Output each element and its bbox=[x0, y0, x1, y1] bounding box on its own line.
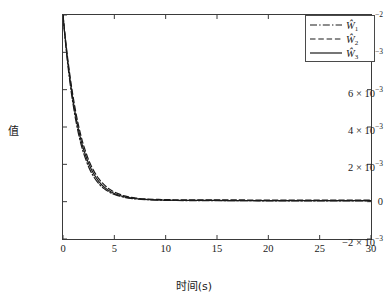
legend-item: Ŵ3 bbox=[309, 46, 371, 60]
legend-line-sample bbox=[309, 48, 343, 58]
legend: Ŵ1Ŵ2Ŵ3 bbox=[305, 15, 375, 62]
legend-label: Ŵ1 bbox=[343, 20, 358, 31]
x-tick-label: 0 bbox=[43, 243, 83, 254]
x-tick-label: 5 bbox=[94, 243, 134, 254]
legend-item: Ŵ2 bbox=[309, 32, 371, 46]
legend-item: Ŵ1 bbox=[309, 18, 371, 32]
y-axis-title: 值 bbox=[2, 125, 24, 139]
legend-line-sample bbox=[309, 20, 343, 30]
y-tick-label: 0 bbox=[330, 197, 388, 207]
figure: −2 × 10−302 × 10−34 × 10−36 × 10−38 × 10… bbox=[0, 0, 388, 302]
legend-line-sample bbox=[309, 34, 343, 44]
x-tick-label: 25 bbox=[300, 243, 340, 254]
x-tick-label: 30 bbox=[351, 243, 388, 254]
y-tick-label: 4 × 10−3 bbox=[330, 122, 388, 136]
x-axis-title: 时间(s) bbox=[0, 277, 388, 293]
legend-label: Ŵ2 bbox=[343, 34, 358, 45]
y-tick-label: 6 × 10−3 bbox=[330, 85, 388, 99]
y-tick-label: 2 × 10−3 bbox=[330, 159, 388, 173]
x-tick-label: 10 bbox=[146, 243, 186, 254]
x-tick-label: 15 bbox=[197, 243, 237, 254]
x-tick-label: 20 bbox=[248, 243, 288, 254]
legend-label: Ŵ3 bbox=[343, 48, 358, 59]
